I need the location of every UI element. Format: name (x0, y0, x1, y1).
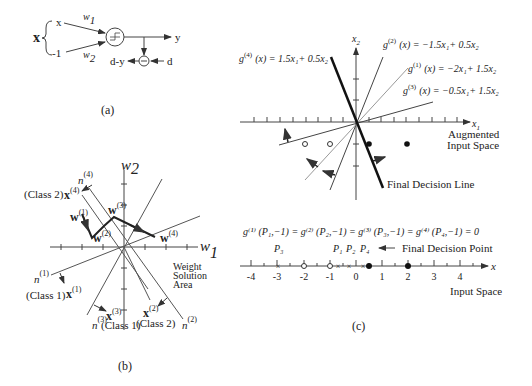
svg-text:×: × (347, 262, 352, 271)
class1-point (328, 264, 333, 269)
normal-arrow-g1 (307, 159, 318, 167)
svg-text:×: × (361, 262, 366, 271)
input-vector-label: x (33, 30, 40, 45)
weight-w2-label: w2 (83, 49, 96, 64)
equation-g2: g(2)(x) = −1.5x₁+ 0.5x₂ (383, 37, 479, 51)
normal-arrow-3 (94, 305, 106, 311)
normal-arrow-2 (158, 298, 167, 306)
output-y-label: y (175, 31, 181, 43)
n1-label: n(1) (34, 269, 49, 285)
class2-point (366, 141, 372, 147)
class1-label-a: (Class 1) (26, 289, 66, 302)
input-space-label: Input Space (450, 285, 502, 297)
x1-label: x(1) (66, 285, 82, 301)
n2-label: n(2) (182, 315, 197, 331)
class2-point (404, 141, 410, 147)
x2-axis-label: x2 (351, 33, 360, 47)
class2-point (405, 263, 411, 269)
svg-text:-1: -1 (326, 271, 334, 282)
step-function-icon (110, 33, 120, 40)
trajectory-arrow-2 (130, 225, 144, 232)
svg-text:3: 3 (432, 271, 437, 282)
caption-a: (a) (101, 103, 114, 117)
class1-label-b: (Class 1) (101, 319, 141, 332)
svg-text:2: 2 (406, 271, 411, 282)
equation-g4: g(4)(x) = 1.5x₁+ 0.5x₂ (239, 51, 329, 65)
normal-arrow-final (373, 157, 385, 161)
input-x-label: x (56, 16, 62, 28)
error-label: d-y (110, 55, 125, 67)
svg-text:4: 4 (458, 271, 463, 282)
figure-canvas: x x -1 w1 w2 y d d-y (a) w2 w1 (0, 0, 532, 386)
input-bias-label: -1 (52, 47, 61, 59)
number-line-tick-labels: -4 -3 -2 -1 0 1 2 3 4 (247, 271, 463, 282)
svg-text:×: × (276, 262, 281, 271)
weight-w1-label: w1 (83, 11, 95, 26)
svg-text:-4: -4 (247, 271, 255, 282)
decision-condition: g⁽¹⁾ (P₁,−1) = g⁽²⁾ (P₂,−1) = g⁽³⁾ (P₃,−… (243, 226, 479, 238)
equation-g3: g(3)(x) = −0.5x₁+ 1.5x₂ (403, 83, 499, 97)
normal-arrow-g2 (323, 171, 335, 175)
x-axis-label: x (490, 260, 496, 272)
class2-label-a: (Class 2) (24, 188, 64, 201)
caption-c: (c) (352, 319, 365, 333)
caption-b: (b) (118, 359, 132, 373)
panel-c-input-space: x -4 -3 -2 -1 0 1 2 3 4 × × × × P₃ P₁ P₂… (240, 242, 502, 333)
final-decision-line-label: Final Decision Line (387, 178, 474, 190)
n4-label: n(4) (78, 170, 93, 186)
solution-area-line3: Area (173, 279, 193, 290)
panel-a-perceptron: x x -1 w1 w2 y d d-y (a) (33, 11, 181, 117)
class1-point (328, 142, 333, 147)
desired-d-label: d (167, 55, 173, 67)
input-x-arrow (64, 23, 105, 33)
svg-text:1: 1 (380, 271, 385, 282)
augmented-label-line2: Input Space (447, 139, 499, 151)
point-p1-label: P₁ (332, 243, 343, 254)
svg-text:-3: -3 (273, 271, 281, 282)
svg-text:0: 0 (354, 271, 359, 282)
point-p4-label: P₄ (359, 243, 370, 254)
svg-text:×: × (336, 262, 341, 271)
panel-c-augmented-space: x1 x2 g(4)(x) = 1.5x₁+ 0.5x₂ g(2)(x) = −… (239, 33, 500, 238)
class1-point (303, 142, 308, 147)
point-p2-label: P₂ (345, 243, 356, 254)
normal-arrow-1 (60, 273, 64, 283)
w1-axis-label: w1 (200, 238, 218, 261)
final-decision-point-label: Final Decision Point (402, 242, 492, 254)
svg-text:-2: -2 (300, 271, 308, 282)
normal-arrow-g3 (285, 129, 288, 142)
point-p3-label: P₃ (273, 243, 284, 254)
x4-label: x(4) (64, 186, 80, 202)
class1-point (302, 264, 307, 269)
w2-label: w(2) (93, 229, 111, 245)
class2-label-b: (Class 2) (136, 317, 176, 330)
w4-label: w(4) (160, 229, 178, 245)
hyperplane-n2 (89, 188, 183, 319)
input-brace (42, 21, 52, 55)
panel-b-weight-space: w2 w1 w(1) w(2) w(3) w(4) n(1) x(1) (Cla… (24, 157, 218, 373)
class2-point (366, 263, 372, 269)
equation-g1: g(1)(x) = −2x₁+ 1.5x₂ (408, 61, 497, 75)
trajectory-arrow-1 (83, 216, 88, 230)
